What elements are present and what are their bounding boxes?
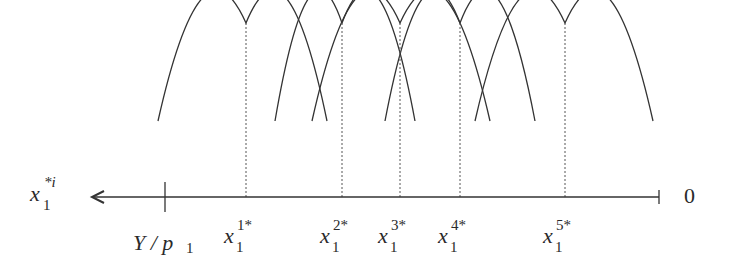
peak-label-base: x <box>378 223 388 248</box>
tick-label-y-over-p1: Y / p 1 <box>133 230 173 256</box>
peak-label-1: x11* <box>224 223 234 249</box>
peak-label-base: x <box>320 223 330 248</box>
curve-5 <box>475 0 653 121</box>
diagram-canvas <box>0 0 732 263</box>
peak-label-sup: 3* <box>391 217 406 234</box>
axis <box>92 182 659 212</box>
peak-label-sup: 5* <box>556 217 571 234</box>
peak-label-2: x12* <box>320 223 330 249</box>
peak-label-base: x <box>224 223 234 248</box>
peak-guides <box>246 23 565 197</box>
peak-label-sup: 1* <box>237 217 252 234</box>
axis-label-zero: 0 <box>684 183 695 209</box>
peak-label-sub: 1 <box>390 239 398 256</box>
curve-2 <box>275 0 415 121</box>
peak-label-sup: 4* <box>451 217 466 234</box>
peak-label-sup: 2* <box>333 217 348 234</box>
peak-label-4: x14* <box>438 223 448 249</box>
curve-3 <box>312 0 490 121</box>
peak-label-5: x15* <box>543 223 553 249</box>
curves <box>158 0 653 121</box>
peak-label-base: x <box>543 223 553 248</box>
curve-1 <box>158 0 327 121</box>
peak-label-sub: 1 <box>450 239 458 256</box>
peak-label-sub: 1 <box>236 239 244 256</box>
peak-label-sub: 1 <box>555 239 563 256</box>
axis-label-left: x 1 *i <box>30 181 40 207</box>
peak-label-sub: 1 <box>332 239 340 256</box>
peak-label-base: x <box>438 223 448 248</box>
peak-label-3: x13* <box>378 223 388 249</box>
